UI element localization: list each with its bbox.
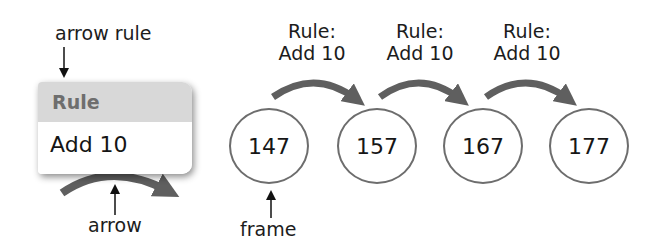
sequence-arrow-icon bbox=[380, 83, 460, 99]
frame-circle: 157 bbox=[337, 108, 417, 184]
sequence-arrow-icon bbox=[273, 83, 356, 99]
rule-label-line2: Add 10 bbox=[370, 42, 470, 64]
rule-label-line2: Add 10 bbox=[262, 42, 362, 64]
arrow-rule-box: Rule Add 10 bbox=[38, 82, 192, 174]
rule-label-line1: Rule: bbox=[262, 20, 362, 42]
rule-body: Add 10 bbox=[38, 122, 192, 174]
frame-circle: 177 bbox=[549, 108, 629, 184]
sequence-rule-label: Rule: Add 10 bbox=[370, 20, 470, 64]
rule-label-line1: Rule: bbox=[477, 20, 577, 42]
rule-label-line2: Add 10 bbox=[477, 42, 577, 64]
frame-circle: 147 bbox=[229, 108, 309, 184]
sequence-arrow-icon bbox=[486, 83, 568, 99]
callout-frame-label: frame bbox=[240, 218, 296, 240]
frame-circle: 167 bbox=[443, 108, 523, 184]
callout-arrow-rule-label: arrow rule bbox=[55, 22, 152, 44]
rule-header: Rule bbox=[38, 82, 192, 122]
callout-arrow-label: arrow bbox=[88, 214, 142, 236]
sequence-rule-label: Rule: Add 10 bbox=[262, 20, 362, 64]
sequence-rule-label: Rule: Add 10 bbox=[477, 20, 577, 64]
rule-label-line1: Rule: bbox=[370, 20, 470, 42]
